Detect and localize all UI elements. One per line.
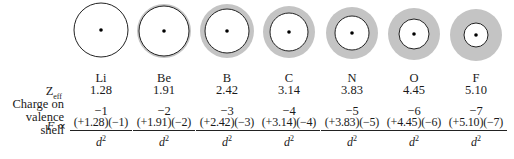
atom-diagram-o [384,4,444,64]
denominator-exponent: 2 [477,134,481,143]
fraction-denominator: d2 [383,131,445,149]
fraction-numerator: (+4.45)(−6) [383,116,445,131]
force-fraction-o: (+4.45)(−6)d2 [383,116,445,149]
atom-diagram-n [322,3,382,63]
force-fraction-li: (+1.28)(−1)d2 [70,116,132,149]
force-fraction-c: (+3.14)(−4)d2 [258,116,320,149]
atom-diagram-b [197,1,257,61]
denominator-exponent: 2 [165,134,169,143]
atom-diagram-li [71,0,131,60]
force-fraction-n: (+3.83)(−5)d2 [321,116,383,149]
fraction-numerator: (+5.10)(−7) [445,116,507,131]
force-fraction-f: (+5.10)(−7)d2 [445,116,507,149]
fraction-numerator: (+3.83)(−5) [321,116,383,131]
force-fraction-be: (+1.91)(−2)d2 [133,116,195,149]
atom-diagram-f [446,5,506,65]
fraction-denominator: d2 [70,131,132,149]
fraction-denominator: d2 [321,131,383,149]
fraction-denominator: d2 [133,131,195,149]
zeff-value-c: 3.14 [257,84,321,97]
zeff-value-f: 5.10 [444,84,508,97]
fraction-denominator: d2 [445,131,507,149]
atom-diagram-c [259,2,319,62]
zeff-value-b: 2.42 [195,84,259,97]
fraction-numerator: (+1.91)(−2) [133,116,195,131]
denominator-exponent: 2 [228,134,232,143]
fraction-numerator: (+3.14)(−4) [258,116,320,131]
nucleus-dot [287,30,291,34]
nucleus-dot [350,31,354,35]
nucleus-dot [412,32,416,36]
fraction-numerator: (+2.42)(−3) [196,116,258,131]
nucleus-dot [99,28,103,32]
denominator-exponent: 2 [353,134,357,143]
zeff-value-be: 1.91 [132,84,196,97]
denominator-exponent: 2 [102,134,106,143]
denominator-exponent: 2 [415,134,419,143]
nucleus-dot [474,33,478,37]
force-row-label: F ∝ [0,120,66,133]
zeff-value-o: 4.45 [382,84,446,97]
zeff-value-li: 1.28 [69,84,133,97]
fraction-numerator: (+1.28)(−1) [70,116,132,131]
nucleus-dot [162,29,166,33]
atom-diagram-be [134,1,194,61]
denominator-exponent: 2 [290,134,294,143]
proportional-symbol: ∝ [54,119,66,133]
nucleus-dot [225,29,229,33]
zeff-value-n: 3.83 [320,84,384,97]
force-fraction-b: (+2.42)(−3)d2 [196,116,258,149]
fraction-denominator: d2 [196,131,258,149]
fraction-denominator: d2 [258,131,320,149]
